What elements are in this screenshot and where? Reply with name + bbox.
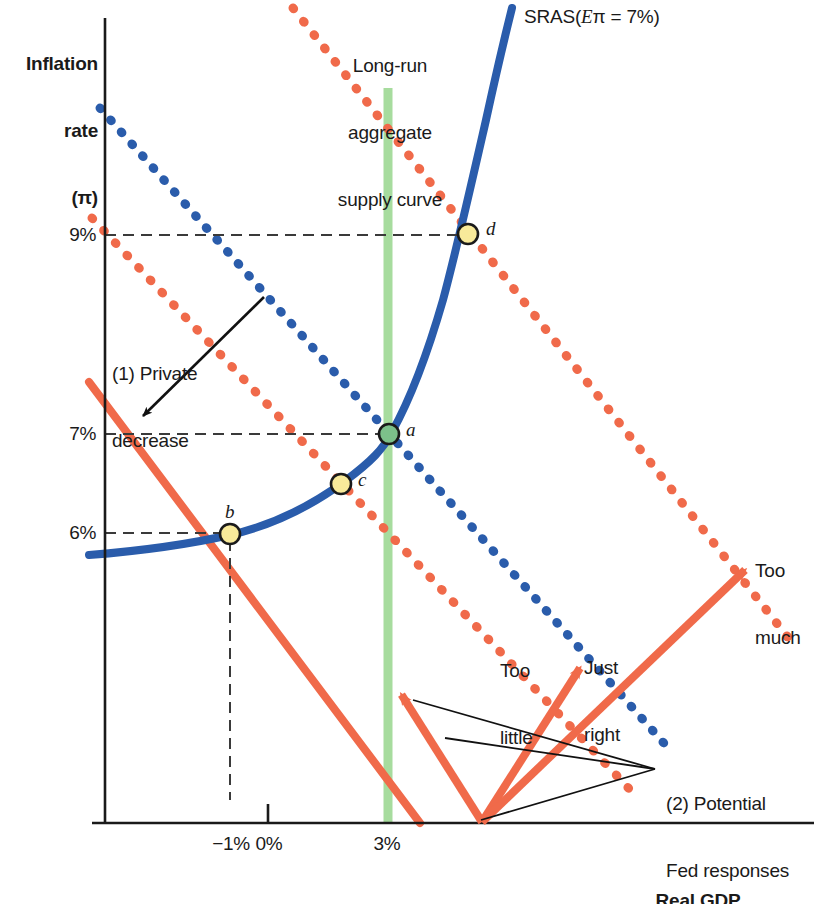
sras-label-prefix: SRAS(	[524, 6, 581, 27]
just-right-line1: Just	[584, 657, 664, 679]
x-tick-label-0pct: 0%	[240, 833, 298, 855]
lras-curve-label: Long-run aggregate supply curve	[284, 10, 496, 256]
lras-label-line2: aggregate	[284, 122, 496, 144]
private-decrease-line1: (1) Private	[112, 363, 292, 385]
just-right-line2: right	[584, 724, 664, 746]
too-much-line1: Too	[755, 560, 814, 582]
y-tick-label-6pct: 6%	[44, 522, 96, 544]
point-label-d: d	[486, 218, 496, 240]
point-marker-b	[220, 524, 240, 544]
point-label-a: a	[406, 419, 416, 441]
private-decrease-line2: decrease	[112, 430, 292, 452]
fed-responses-line1: (2) Potential	[666, 793, 814, 815]
sras-curve-label: SRAS(Eπ = 7%)	[524, 6, 660, 28]
just-right-annotation: Just right	[584, 612, 664, 791]
point-marker-c	[331, 474, 351, 494]
point-marker-a	[379, 424, 399, 444]
point-label-c: c	[358, 469, 366, 491]
y-axis-title: Inflation rate (π)	[2, 8, 98, 254]
economics-diagram: Inflation rate (π) Real GDP growth rate …	[0, 0, 814, 904]
too-much-annotation: Too much	[755, 515, 814, 694]
y-axis-title-line3: (π)	[2, 187, 98, 209]
point-label-b: b	[225, 501, 235, 523]
too-little-annotation: Too little	[500, 615, 570, 794]
fed-responses-annotation: (2) Potential Fed responses	[666, 748, 814, 904]
y-tick-label-7pct: 7%	[44, 423, 96, 445]
sras-label-expectation-symbol: E	[581, 6, 592, 27]
fed-responses-line2: Fed responses	[666, 860, 814, 882]
lras-label-line1: Long-run	[284, 55, 496, 77]
too-much-line2: much	[755, 627, 814, 649]
private-decrease-annotation: (1) Private decrease	[112, 318, 292, 497]
too-little-line1: Too	[500, 660, 570, 682]
too-little-line2: little	[500, 727, 570, 749]
y-axis-title-line1: Inflation	[2, 53, 98, 75]
x-tick-label-3pct: 3%	[358, 833, 416, 855]
lras-label-line3: supply curve	[284, 189, 496, 211]
y-axis-title-line2: rate	[2, 120, 98, 142]
y-tick-label-9pct: 9%	[44, 224, 96, 246]
sras-label-suffix: π = 7%)	[592, 6, 659, 27]
